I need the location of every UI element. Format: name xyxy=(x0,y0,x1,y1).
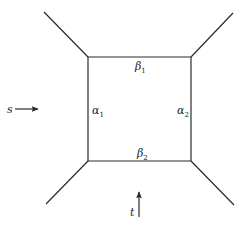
label-beta-1: β1 xyxy=(134,60,146,75)
external-leg-bottom-left xyxy=(46,161,88,204)
box-diagram: β1 β2 α1 α2 s t xyxy=(0,0,243,225)
label-s: s xyxy=(7,103,13,116)
external-leg-top-left xyxy=(44,12,88,57)
external-leg-bottom-right xyxy=(191,161,234,205)
label-t: t xyxy=(130,206,135,219)
label-alpha-2: α2 xyxy=(177,104,189,119)
external-leg-top-right xyxy=(191,13,233,57)
label-alpha-1: α1 xyxy=(92,104,104,119)
label-beta-2: β2 xyxy=(136,147,148,162)
